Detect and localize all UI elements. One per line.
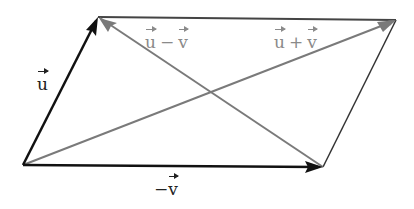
label-u-plus-v: u+v (274, 34, 317, 51)
label-u-minus-v-left: u (145, 34, 156, 51)
label-u-var: u (37, 76, 48, 93)
vector-u-arrow (23, 21, 96, 165)
label-u-minus-v-right: v (178, 34, 188, 51)
label-neg-v: −v (154, 181, 178, 198)
label-neg-v-var: v (168, 181, 178, 198)
vector-neg-v-arrow (23, 165, 318, 167)
label-u-minus-v: u−v (145, 34, 188, 51)
label-u-plus-v-right: v (307, 34, 317, 51)
label-u: u (37, 76, 48, 93)
label-u-plus-v-left: u (274, 34, 285, 51)
arrowhead-u-icon (86, 17, 98, 36)
label-u-minus-v-op: − (160, 34, 174, 51)
edge-top (98, 17, 396, 20)
label-u-plus-v-op: + (289, 34, 303, 51)
parallelogram-diagram (0, 0, 414, 209)
arrowhead-u-minus-v-icon (99, 18, 117, 32)
edge-right (323, 20, 396, 167)
vector-u-plus-v-arrow (23, 21, 394, 165)
label-neg-v-sign: − (154, 179, 168, 199)
